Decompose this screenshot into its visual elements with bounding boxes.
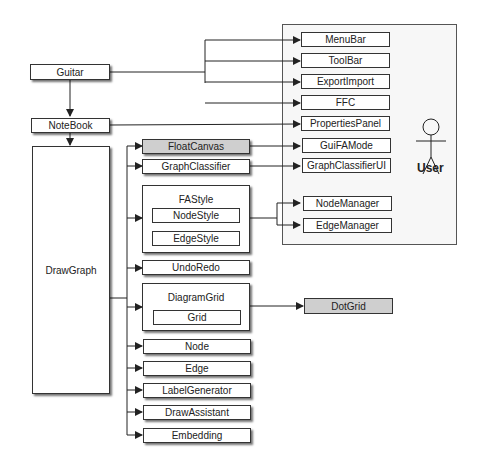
- dotgrid-node[interactable]: DotGrid: [304, 298, 393, 314]
- undoredo-node[interactable]: UndoRedo: [142, 260, 250, 275]
- guitar-node[interactable]: Guitar: [30, 64, 110, 80]
- notebook-node[interactable]: NoteBook: [31, 118, 110, 133]
- drawgraph-node[interactable]: DrawGraph: [32, 146, 110, 394]
- fastyle-label: FAStyle: [179, 194, 213, 205]
- user-actor-label: User: [417, 161, 444, 175]
- nodemanager-node[interactable]: NodeManager: [303, 196, 392, 211]
- ffc-node[interactable]: FFC: [301, 95, 390, 110]
- menubar-node[interactable]: MenuBar: [301, 32, 390, 47]
- edgemanager-node[interactable]: EdgeManager: [303, 218, 392, 233]
- exportimport-node[interactable]: ExportImport: [301, 74, 390, 89]
- graphclassifierui-node[interactable]: GraphClassifierUI: [302, 158, 391, 173]
- grid-node[interactable]: Grid: [153, 310, 241, 325]
- labelgenerator-node[interactable]: LabelGenerator: [143, 383, 251, 398]
- edgestyle-node[interactable]: EdgeStyle: [152, 231, 240, 246]
- floatcanvas-node[interactable]: FloatCanvas: [142, 139, 250, 154]
- edge-node[interactable]: Edge: [143, 361, 251, 376]
- nodestyle-node[interactable]: NodeStyle: [152, 208, 240, 223]
- graphclassifier-node[interactable]: GraphClassifier: [142, 159, 250, 174]
- embedding-node[interactable]: Embedding: [143, 428, 251, 443]
- propertiespanel-node[interactable]: PropertiesPanel: [301, 116, 390, 131]
- node-node[interactable]: Node: [143, 339, 251, 354]
- guifamode-node[interactable]: GuiFAMode: [302, 138, 391, 153]
- diagramgrid-label: DiagramGrid: [168, 292, 225, 303]
- toolbar-node[interactable]: ToolBar: [301, 53, 390, 68]
- drawassistant-node[interactable]: DrawAssistant: [143, 405, 251, 420]
